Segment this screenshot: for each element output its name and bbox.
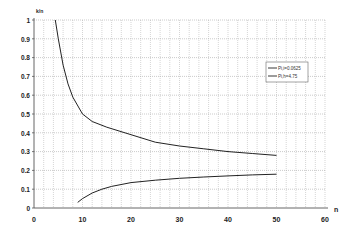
y-tick-label: 0.4	[21, 130, 30, 137]
y-tick-label: 0.5	[21, 111, 30, 118]
y-tick-label: 0.1	[21, 186, 30, 193]
x-tick-label: 60	[321, 216, 329, 223]
x-tick-label: 30	[176, 216, 184, 223]
axes	[34, 18, 328, 208]
legend: Pi,i=0.0625Pi,h=4.75	[266, 62, 308, 82]
x-tick-label: 10	[79, 216, 87, 223]
y-tick-label: 0.2	[21, 167, 30, 174]
legend-label: Pi,h=4.75	[278, 74, 298, 79]
y-tick-label: 0	[26, 205, 30, 212]
x-tick-labels: 0102030405060	[32, 216, 329, 223]
data-series	[55, 20, 276, 202]
grid-lines	[34, 20, 325, 208]
y-tick-label: 0.8	[21, 54, 30, 61]
x-tick-label: 50	[273, 216, 281, 223]
line-chart: 00.10.20.30.40.50.60.70.80.91 0102030405…	[0, 0, 355, 236]
y-tick-label: 0.6	[21, 92, 30, 99]
x-tick-label: 20	[127, 216, 135, 223]
y-tick-label: 0.7	[21, 73, 30, 80]
x-axis-label: n	[334, 206, 338, 213]
series-line-1	[55, 20, 276, 155]
series-line-2	[78, 174, 277, 202]
x-tick-label: 0	[32, 216, 36, 223]
y-tick-label: 0.9	[21, 36, 30, 43]
x-tick-label: 40	[224, 216, 232, 223]
legend-label: Pi,i=0.0625	[278, 66, 301, 71]
y-tick-label: 1	[26, 17, 30, 24]
y-tick-labels: 00.10.20.30.40.50.60.70.80.91	[21, 17, 34, 212]
y-tick-label: 0.3	[21, 148, 30, 155]
y-axis-label: k/n	[36, 8, 43, 14]
